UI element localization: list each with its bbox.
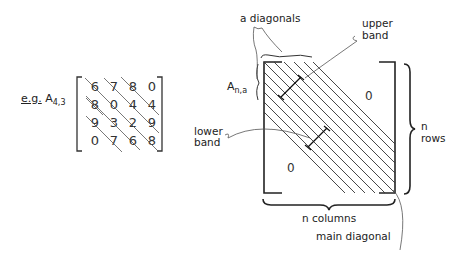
upper-band-label-line1: upper	[362, 18, 393, 29]
upper-zero-region: 0	[365, 89, 373, 103]
example-brackets	[77, 77, 162, 151]
lower-band-label-line2: band	[194, 137, 220, 148]
a-diagonals-leader-right	[254, 27, 282, 52]
band-hatching	[264, 62, 395, 193]
n-rows-brace	[404, 64, 415, 194]
n-columns-brace	[263, 199, 395, 210]
lower-zero-region: 0	[287, 161, 295, 175]
band-matrix-subscript: n,a	[235, 86, 248, 95]
band-matrix-symbol: A	[227, 80, 235, 93]
diagram-graphics	[0, 0, 470, 261]
lower-band-leader	[225, 129, 310, 138]
upper-band-leader	[305, 36, 357, 78]
main-diagonal-label: main diagonal	[316, 231, 391, 242]
n-rows-label-line2: rows	[421, 133, 446, 144]
n-rows-label-line1: n	[421, 121, 428, 132]
band-matrix-label: An,a	[227, 80, 247, 95]
example-diagonal-lines	[85, 77, 159, 152]
upper-band-label-line2: band	[362, 30, 388, 41]
n-columns-label: n columns	[302, 213, 356, 224]
a-diagonals-label: a diagonals	[240, 13, 300, 24]
